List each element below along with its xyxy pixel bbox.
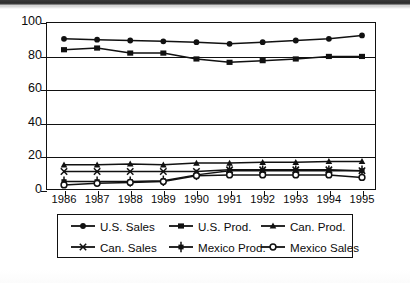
y-axis-tick-label: 80 <box>2 49 42 62</box>
bottom-margin <box>0 270 410 283</box>
data-point-marker <box>178 223 184 228</box>
series-lines <box>46 22 376 190</box>
legend-item-label: Can. Prod. <box>290 220 345 233</box>
legend-marker-filled-triangle-icon <box>260 219 286 233</box>
legend-item-label: U.S. Sales <box>100 220 155 233</box>
legend: U.S. SalesU.S. Prod.Can. Prod. Can. Sale… <box>57 214 353 258</box>
data-point-marker <box>270 244 276 250</box>
data-point-marker <box>80 223 86 229</box>
data-point-marker <box>94 180 100 186</box>
series-u-s-sales <box>61 33 365 47</box>
y-axis-tick-label: 40 <box>2 116 42 129</box>
legend-item: Can. Sales <box>64 236 157 258</box>
legend-swatch <box>168 219 194 233</box>
legend-item: Mexico Sales <box>254 236 359 258</box>
y-axis-tick-label: 0 <box>2 183 42 196</box>
y-axis-tick-label: 60 <box>2 82 42 95</box>
data-point-marker <box>227 41 233 47</box>
chart-figure: 020406080100 198619871988198919901991199… <box>0 0 410 283</box>
x-axis-tick-label: 1995 <box>339 193 385 205</box>
data-point-marker <box>160 38 166 44</box>
data-point-marker <box>193 56 199 61</box>
legend-row: Can. SalesMexico Prod.Mexico Sales <box>58 236 352 258</box>
legend-item-label: U.S. Prod. <box>198 220 251 233</box>
legend-item: Mexico Prod. <box>162 236 266 258</box>
data-point-marker <box>326 54 332 59</box>
y-axis-tick <box>41 191 47 192</box>
data-point-marker <box>260 39 266 45</box>
top-scan-band-fade <box>0 6 410 9</box>
data-point-marker <box>61 182 67 188</box>
legend-item: Can. Prod. <box>254 215 345 237</box>
series-can-prod <box>61 158 366 167</box>
data-point-marker <box>94 37 100 43</box>
y-axis-tick-label: 20 <box>2 149 42 162</box>
legend-marker-open-circle-icon <box>260 240 286 254</box>
data-point-marker <box>127 38 133 44</box>
legend-swatch <box>70 219 96 233</box>
data-point-marker <box>160 179 166 185</box>
data-point-marker <box>127 180 133 186</box>
data-point-marker <box>178 242 183 252</box>
legend-marker-filled-circle-icon <box>70 219 96 233</box>
series-u-s-prod <box>61 45 365 64</box>
legend-marker-barred-square-icon <box>168 240 194 254</box>
data-point-marker <box>94 45 100 50</box>
data-point-marker <box>326 36 332 42</box>
series-mexico-sales <box>61 172 365 188</box>
data-point-marker <box>61 47 67 52</box>
legend-swatch <box>70 240 96 254</box>
data-point-marker <box>227 60 233 65</box>
data-point-marker <box>359 33 365 39</box>
data-point-marker <box>260 172 266 178</box>
data-point-marker <box>160 50 166 55</box>
data-point-marker <box>359 54 365 59</box>
data-point-marker <box>293 38 299 44</box>
legend-item: U.S. Prod. <box>162 215 251 237</box>
legend-marker-cross-x-icon <box>70 240 96 254</box>
data-point-marker <box>194 39 200 45</box>
legend-marker-filled-square-icon <box>168 219 194 233</box>
legend-item: U.S. Sales <box>64 215 155 237</box>
data-point-marker <box>194 173 200 179</box>
y-axis-tick-label: 100 <box>2 15 42 28</box>
legend-row: U.S. SalesU.S. Prod.Can. Prod. <box>58 215 352 237</box>
data-point-marker <box>260 58 266 63</box>
data-point-marker <box>293 172 299 178</box>
data-point-marker <box>293 56 299 61</box>
data-point-marker <box>359 175 365 181</box>
legend-swatch <box>260 240 286 254</box>
data-point-marker <box>127 50 133 55</box>
data-point-marker <box>227 172 233 178</box>
legend-item-label: Mexico Sales <box>290 241 359 254</box>
data-point-marker <box>326 172 332 178</box>
legend-item-label: Can. Sales <box>100 241 157 254</box>
legend-swatch <box>168 240 194 254</box>
data-point-marker <box>61 36 67 42</box>
legend-swatch <box>260 219 286 233</box>
